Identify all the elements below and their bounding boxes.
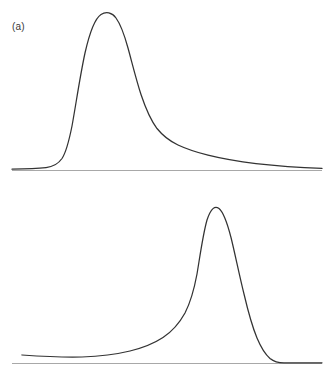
figure-container: (a) (b) xyxy=(0,0,336,379)
panel-b-plot xyxy=(0,190,336,379)
panel-b: (b) xyxy=(0,190,336,379)
panel-a: (a) xyxy=(0,0,336,190)
panel-a-curve xyxy=(12,13,322,170)
panel-a-plot xyxy=(0,0,336,190)
panel-b-curve xyxy=(22,207,322,363)
